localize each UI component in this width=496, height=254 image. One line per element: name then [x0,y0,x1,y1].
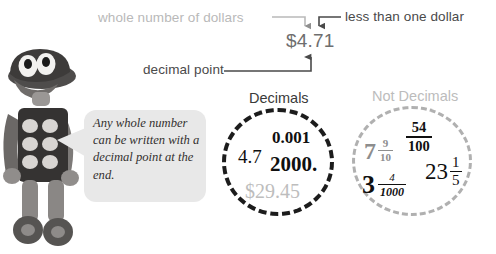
fraction: 1 5 [450,155,462,188]
decimal-point-connector [224,57,311,71]
decimals-item-0-001: 0.001 [272,128,310,148]
numerator: 9 [381,138,391,150]
not-decimals-heading: Not Decimals [372,88,458,104]
not-decimals-item-mixed-3-4-1000: 3 4 1000 [362,172,406,198]
not-decimals-item-mixed-7-9-10: 7 9 10 [364,138,393,163]
whole-part: 3 [362,172,375,198]
whole-number-of-dollars-label: whole number of dollars [98,10,244,25]
denominator: 1000 [378,184,406,198]
worksheet-page: whole number of dollars less than one do… [0,0,496,254]
decimal-point-label: decimal point [143,62,224,77]
fraction: 9 10 [378,138,393,163]
numerator: 54 [410,120,429,136]
speech-bubble-text: Any whole number can be written with a d… [93,115,205,184]
not-decimals-item-mixed-23-1-5: 23 1 5 [425,155,462,188]
less-than-one-dollar-label: less than one dollar [345,9,464,24]
denominator: 10 [378,150,393,163]
numerator: 1 [450,155,462,171]
denominator: 100 [406,136,432,154]
denominator: 5 [450,171,462,188]
fraction: 4 1000 [378,172,406,198]
whole-part: 23 [425,160,448,183]
decimals-item-2000: 2000. [270,152,317,177]
not-decimals-item-fraction-54-100: 54 100 [404,120,432,153]
fraction: 54 100 [406,120,432,153]
whole-part: 7 [364,139,376,163]
whole-number-connector [272,17,305,26]
numerator: 4 [387,172,397,184]
money-amount-value: $4.71 [286,30,335,52]
decimals-heading: Decimals [249,90,309,106]
decimals-item-29-45: $29.45 [245,180,300,203]
decimals-item-4-7: 4.7 [238,146,262,168]
less-than-connector [319,17,341,26]
